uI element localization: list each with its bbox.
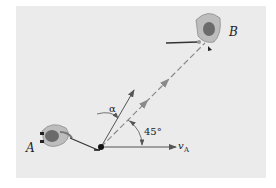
label-v-subscript: A [183,146,190,154]
label-a: A [25,141,35,155]
label-b: B [228,25,238,39]
label-45-degrees: 45° [144,126,162,137]
puck [98,144,104,150]
player-b-figure [166,13,220,51]
player-a-figure [40,125,100,150]
angle-45-arc [128,120,142,145]
hockey-pass-diagram: A B v A α 45° [0,0,276,188]
label-alpha: α [109,103,116,114]
